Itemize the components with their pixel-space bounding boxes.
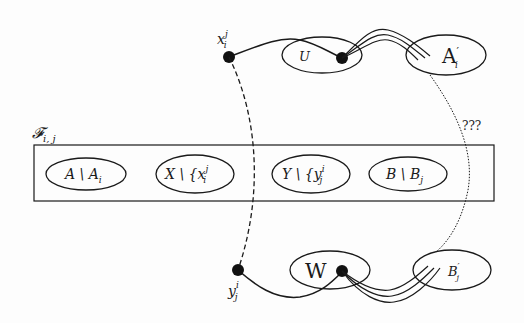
diagram-canvas: 𝓕i, j A \ Ai X \ {xji Y \ {yij B \ Bj U … — [0, 0, 524, 323]
set-b-minus-bj-label: B \ Bj — [385, 166, 423, 185]
set-u — [282, 37, 362, 73]
set-a-prime-i-label: A′i — [441, 44, 459, 70]
set-u-label: U — [299, 49, 311, 64]
family-label: 𝓕i, j — [32, 124, 56, 144]
vertex-y-ji-label: yij — [227, 280, 239, 302]
dashed-path-x-to-y — [229, 57, 254, 270]
set-x-minus-xij-label: X \ {xji — [164, 164, 208, 185]
question-label: ??? — [462, 119, 481, 133]
set-b-prime-j-label: B′j — [447, 262, 460, 282]
multi-edge-u-to-a-1 — [342, 29, 430, 58]
vertex-x-ij-label: xji — [217, 29, 228, 50]
set-w-label: W — [305, 259, 327, 283]
dotted-path-a-to-b — [430, 75, 469, 252]
multi-edge-w-to-b-3 — [342, 268, 440, 302]
vertex-y-ji — [232, 264, 244, 276]
family-box — [34, 145, 494, 201]
edge-x-to-u — [229, 39, 342, 58]
set-a-minus-ai-label: A \ Ai — [63, 166, 102, 185]
set-y-minus-yji-label: Y \ {yij — [282, 164, 325, 185]
diagram-svg: 𝓕i, j A \ Ai X \ {xji Y \ {yij B \ Bj U … — [0, 0, 524, 323]
